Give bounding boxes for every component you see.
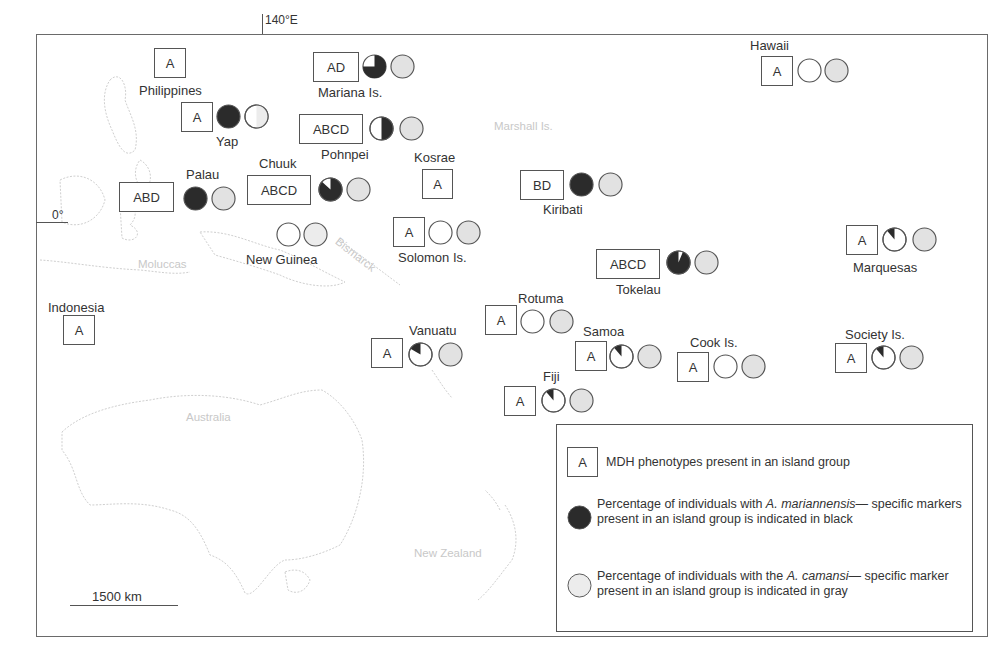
mdh-box-society: A xyxy=(835,343,867,373)
legend-gray-text-part1: Percentage of individuals with the xyxy=(597,569,787,583)
gray-pie-tokelau xyxy=(694,250,719,275)
label-moluccas: Moluccas xyxy=(138,259,187,271)
gray-pie-new-guinea xyxy=(303,222,328,247)
legend-black-text: Percentage of individuals with A. marian… xyxy=(597,497,964,527)
gray-pie-chuuk xyxy=(346,177,371,202)
black-pie-hawaii xyxy=(797,58,822,83)
black-pie-samoa xyxy=(609,344,634,369)
scale-bar xyxy=(70,605,178,606)
legend-row-black: Percentage of individuals with A. marian… xyxy=(567,497,964,547)
gray-pie-hawaii xyxy=(824,58,849,83)
label-marshall: Marshall Is. xyxy=(494,121,553,133)
mdh-box-marquesas: A xyxy=(846,225,878,255)
black-pie-chuuk xyxy=(318,177,343,202)
mdh-box-mariana: AD xyxy=(313,52,359,82)
meridian-tick xyxy=(262,14,263,34)
mdh-box-rotuma: A xyxy=(485,305,517,335)
equator-tick xyxy=(36,222,68,223)
label-kiribati: Kiribati xyxy=(543,203,583,216)
legend-gray-text: Percentage of individuals with the A. ca… xyxy=(597,569,964,599)
legend-mdh-box: A xyxy=(567,447,598,477)
label-cook: Cook Is. xyxy=(690,336,738,349)
mdh-box-indonesia: A xyxy=(63,315,95,345)
label-rotuma: Rotuma xyxy=(518,292,564,305)
black-pie-palau xyxy=(183,186,208,211)
black-pie-kiribati xyxy=(569,172,594,197)
legend-row-mdh: A MDH phenotypes present in an island gr… xyxy=(567,447,964,477)
label-mariana: Mariana Is. xyxy=(318,86,382,99)
black-pie-rotuma xyxy=(520,309,545,334)
mdh-box-kosrae: A xyxy=(422,169,453,199)
label-philippines: Philippines xyxy=(139,84,202,97)
black-pie-vanuatu xyxy=(408,342,433,367)
scale-label: 1500 km xyxy=(92,590,142,603)
gray-pie-pohnpei xyxy=(399,116,424,141)
gray-pie-fiji xyxy=(569,388,594,413)
black-pie-mariana xyxy=(362,54,387,79)
label-society: Society Is. xyxy=(845,328,905,341)
gray-pie-society xyxy=(899,345,924,370)
black-pie-marquesas xyxy=(882,227,907,252)
legend: A MDH phenotypes present in an island gr… xyxy=(556,424,973,632)
black-pie-yap xyxy=(216,104,241,129)
gray-pie-kiribati xyxy=(598,172,623,197)
mdh-box-solomon: A xyxy=(393,217,425,247)
mdh-box-kiribati: BD xyxy=(520,170,564,200)
label-chuuk: Chuuk xyxy=(259,157,297,170)
mdh-box-palau: ABD xyxy=(119,182,174,212)
black-pie-pohnpei xyxy=(369,116,394,141)
gray-pie-samoa xyxy=(637,344,662,369)
label-solomon: Solomon Is. xyxy=(398,251,467,264)
legend-black-text-part1: Percentage of individuals with xyxy=(597,497,766,511)
label-samoa: Samoa xyxy=(583,325,624,338)
label-hawaii: Hawaii xyxy=(750,39,789,52)
label-fiji: Fiji xyxy=(543,370,560,383)
label-new-zealand: New Zealand xyxy=(414,548,482,560)
legend-gray-species: A. camansi xyxy=(787,569,849,583)
gray-pie-marquesas xyxy=(912,227,937,252)
gray-pie-rotuma xyxy=(549,309,574,334)
label-indonesia: Indonesia xyxy=(48,301,104,314)
mdh-box-philippines: A xyxy=(154,48,186,78)
label-kosrae: Kosrae xyxy=(414,151,455,164)
label-pohnpei: Pohnpei xyxy=(321,148,369,161)
black-pie-tokelau xyxy=(666,250,691,275)
mdh-box-cook: A xyxy=(677,352,709,382)
mdh-box-hawaii: A xyxy=(761,56,793,86)
gray-pie-cook xyxy=(741,354,766,379)
mdh-box-tokelau: ABCD xyxy=(596,249,660,279)
mdh-box-samoa: A xyxy=(575,341,607,371)
legend-row-gray: Percentage of individuals with the A. ca… xyxy=(567,569,964,603)
black-pie-solomon xyxy=(428,220,453,245)
legend-black-species: A. mariannensis xyxy=(766,497,856,511)
mdh-box-pohnpei: ABCD xyxy=(299,114,363,144)
black-pie-society xyxy=(871,345,896,370)
meridian-label: 140°E xyxy=(265,14,298,26)
gray-pie-yap xyxy=(244,104,269,129)
legend-mdh-text: MDH phenotypes present in an island grou… xyxy=(606,455,964,470)
mdh-box-vanuatu: A xyxy=(371,338,403,368)
mdh-box-fiji: A xyxy=(504,386,536,416)
black-pie-fiji xyxy=(541,388,566,413)
mdh-box-yap: A xyxy=(181,102,213,132)
legend-black-circle-icon xyxy=(567,505,592,530)
label-australia: Australia xyxy=(186,412,231,424)
label-vanuatu: Vanuatu xyxy=(409,324,456,337)
black-pie-new-guinea xyxy=(276,222,301,247)
gray-pie-palau xyxy=(211,186,236,211)
legend-gray-circle-icon xyxy=(567,573,592,598)
label-tokelau: Tokelau xyxy=(616,283,661,296)
label-palau: Palau xyxy=(186,168,219,181)
label-new-guinea: New Guinea xyxy=(246,253,318,266)
label-marquesas: Marquesas xyxy=(853,261,917,274)
black-pie-cook xyxy=(713,354,738,379)
gray-pie-solomon xyxy=(456,220,481,245)
gray-pie-vanuatu xyxy=(438,342,463,367)
equator-label: 0° xyxy=(52,209,63,221)
mdh-box-chuuk: ABCD xyxy=(247,175,311,205)
label-yap: Yap xyxy=(216,135,238,148)
gray-pie-mariana xyxy=(390,54,415,79)
